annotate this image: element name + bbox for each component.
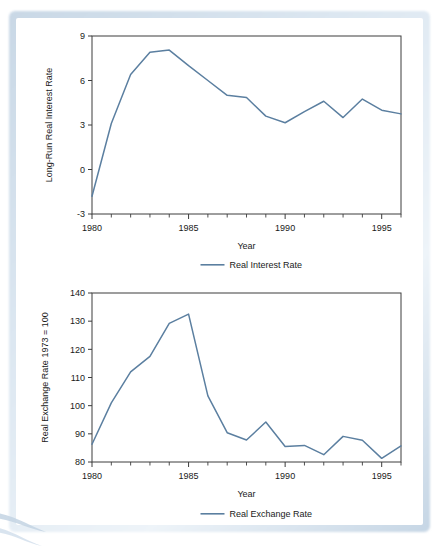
y-tick-label: -3: [77, 209, 85, 219]
x-tick-label: 1990: [275, 223, 295, 233]
y-tick-label: 3: [80, 120, 85, 130]
x-tick-label: 1995: [372, 223, 392, 233]
y-tick-label: 100: [70, 401, 85, 411]
y-axis-title: Real Exchange Rate 1973 = 100: [40, 312, 50, 442]
x-axis-title: Year: [237, 489, 255, 499]
chart-real-interest-rate: -303691980198519901995Long-Run Real Inte…: [16, 20, 423, 272]
plot-frame: [92, 293, 401, 462]
real-interest-rate-plot: -303691980198519901995Long-Run Real Inte…: [16, 20, 423, 272]
legend-label: Real Interest Rate: [230, 260, 303, 270]
x-tick-label: 1980: [82, 223, 102, 233]
x-tick-label: 1995: [372, 471, 392, 481]
data-line-real-exchange-rate: [92, 314, 401, 458]
x-tick-label: 1990: [275, 471, 295, 481]
y-tick-label: 0: [80, 165, 85, 175]
y-tick-label: 80: [75, 457, 85, 467]
y-tick-label: 9: [80, 31, 85, 41]
chart-real-exchange-rate: 80901001101201301401980198519901995Real …: [16, 280, 423, 528]
x-axis-title: Year: [237, 241, 255, 251]
x-tick-label: 1980: [82, 471, 102, 481]
plot-frame: [92, 36, 401, 214]
x-tick-label: 1985: [179, 223, 199, 233]
y-tick-label: 90: [75, 429, 85, 439]
real-exchange-rate-plot: 80901001101201301401980198519901995Real …: [16, 280, 423, 528]
figure-page: -303691980198519901995Long-Run Real Inte…: [0, 0, 443, 552]
y-tick-label: 130: [70, 316, 85, 326]
y-axis-title: Long-Run Real Interest Rate: [44, 68, 54, 183]
data-line-real-interest-rate: [92, 50, 401, 196]
y-tick-label: 120: [70, 345, 85, 355]
y-tick-label: 110: [71, 373, 85, 383]
legend-label: Real Exchange Rate: [230, 509, 313, 519]
y-tick-label: 140: [70, 288, 85, 298]
x-tick-label: 1985: [179, 471, 199, 481]
y-tick-label: 6: [80, 76, 85, 86]
